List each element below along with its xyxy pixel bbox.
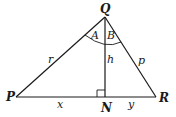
right-angle-marker	[97, 90, 105, 97]
altitude-h-label: h	[107, 53, 114, 66]
vertex-n-label: N	[100, 101, 113, 115]
vertex-q-label: Q	[100, 2, 111, 16]
angle-b-label: B	[106, 29, 115, 42]
angle-a-label: A	[90, 29, 99, 42]
segment-y-label: y	[127, 98, 135, 111]
segment-x-label: x	[57, 98, 64, 111]
side-p-label: p	[138, 54, 145, 67]
vertex-p-label: P	[5, 90, 16, 104]
triangle-diagram: Q P R N A B r p h x y	[0, 0, 176, 117]
vertex-r-label: R	[158, 91, 169, 105]
side-r-label: r	[48, 53, 54, 66]
